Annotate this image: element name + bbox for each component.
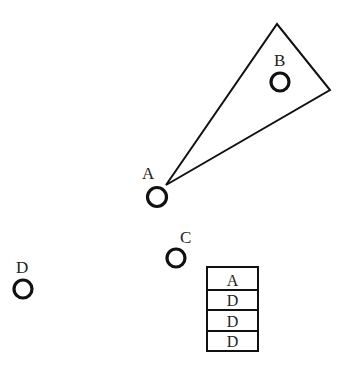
order-table: A D D D [207, 267, 258, 351]
table-cell: D [227, 313, 239, 330]
node-b-circle [271, 73, 289, 91]
node-c-label: C [180, 228, 191, 247]
node-d-circle [14, 280, 32, 298]
node-b-label: B [274, 51, 285, 70]
table-cell: D [227, 333, 239, 350]
view-cone [166, 24, 330, 185]
node-c-circle [167, 249, 185, 267]
diagram-canvas: A B C D A D D D [0, 0, 351, 372]
table-cell: A [227, 272, 239, 289]
node-d-label: D [16, 258, 28, 277]
table-cell: D [227, 292, 239, 309]
node-a-circle [148, 188, 167, 207]
node-a-label: A [142, 164, 155, 183]
